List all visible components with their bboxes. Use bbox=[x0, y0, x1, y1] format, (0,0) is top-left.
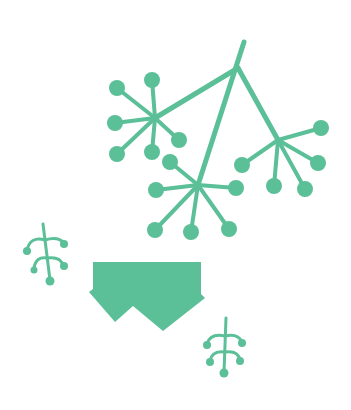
illustration-canvas bbox=[0, 0, 351, 410]
umbel-illustration bbox=[0, 0, 351, 410]
left-sprig bbox=[23, 224, 68, 286]
upper-left-umbel bbox=[115, 80, 179, 154]
right-umbel bbox=[242, 128, 321, 189]
lower-middle-umbel bbox=[155, 162, 236, 232]
bottom-sprig bbox=[203, 318, 246, 378]
vase-shape bbox=[89, 262, 205, 331]
